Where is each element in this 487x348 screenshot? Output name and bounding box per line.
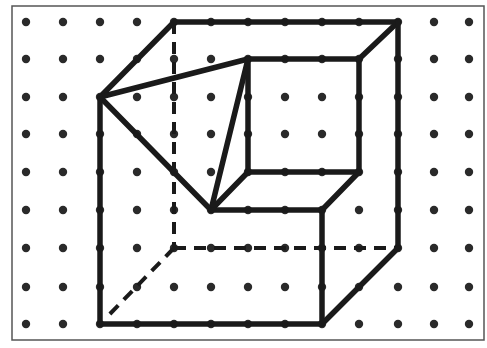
grid-dot <box>59 244 67 252</box>
grid-dot <box>465 168 473 176</box>
grid-dot <box>281 93 289 101</box>
grid-dot <box>281 283 289 291</box>
grid-dot <box>59 283 67 291</box>
grid-dot <box>22 206 30 214</box>
grid-dot <box>465 130 473 138</box>
grid-dot <box>133 93 141 101</box>
grid-dot <box>96 18 104 26</box>
grid-dot <box>465 18 473 26</box>
grid-dot <box>59 18 67 26</box>
grid-dot <box>207 244 215 252</box>
grid-dot <box>207 55 215 63</box>
grid-dot <box>22 168 30 176</box>
grid-dot <box>465 55 473 63</box>
grid-dot <box>59 93 67 101</box>
grid-dot <box>281 130 289 138</box>
grid-dot <box>430 320 438 328</box>
grid-dot <box>465 206 473 214</box>
grid-dot <box>465 320 473 328</box>
grid-dot <box>430 283 438 291</box>
geoboard-figure <box>0 0 487 348</box>
grid-dot <box>22 18 30 26</box>
grid-dot <box>22 93 30 101</box>
grid-dot <box>465 283 473 291</box>
grid-dot <box>170 93 178 101</box>
grid-dot <box>430 206 438 214</box>
grid-dot <box>430 130 438 138</box>
grid-dot <box>22 244 30 252</box>
grid-dot <box>430 244 438 252</box>
grid-dot <box>22 55 30 63</box>
grid-dot <box>430 168 438 176</box>
grid-dot <box>59 55 67 63</box>
grid-dot <box>170 283 178 291</box>
grid-dot <box>355 206 363 214</box>
grid-dot <box>465 244 473 252</box>
grid-dot <box>170 55 178 63</box>
visible-edge <box>100 97 211 210</box>
grid-dot <box>133 244 141 252</box>
visible-edge <box>322 172 359 210</box>
grid-dot <box>430 93 438 101</box>
grid-dot <box>59 130 67 138</box>
grid-dot <box>22 283 30 291</box>
grid-dot <box>207 283 215 291</box>
grid-dot <box>59 168 67 176</box>
grid-dot <box>133 18 141 26</box>
grid-dot <box>133 168 141 176</box>
grid-dot <box>207 130 215 138</box>
grid-dot <box>430 55 438 63</box>
grid-dot <box>59 320 67 328</box>
grid-dot <box>394 320 402 328</box>
grid-dot <box>430 18 438 26</box>
grid-dot <box>22 130 30 138</box>
grid-dot <box>355 320 363 328</box>
grid-dot <box>22 320 30 328</box>
grid-dot <box>207 93 215 101</box>
grid-dot <box>318 130 326 138</box>
grid-dot <box>207 168 215 176</box>
grid-dot <box>318 93 326 101</box>
visible-edge <box>322 248 398 324</box>
grid-dot <box>59 206 67 214</box>
grid-dot <box>244 283 252 291</box>
grid-dot <box>96 55 104 63</box>
hidden-edge <box>106 248 174 318</box>
grid-dot <box>133 206 141 214</box>
visible-edge <box>359 22 398 59</box>
grid-dot <box>465 93 473 101</box>
grid-dot <box>394 283 402 291</box>
